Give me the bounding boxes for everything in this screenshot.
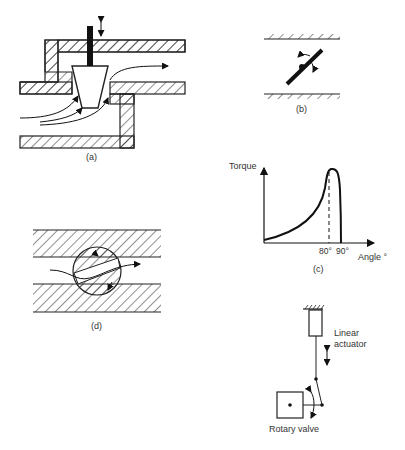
actuator-label-line1: Linear — [334, 328, 359, 338]
figure-e-actuator-linkage — [277, 305, 327, 418]
actuator-label-line2: actuator — [334, 339, 367, 349]
figure-d-ball-valve — [33, 230, 161, 312]
rotary-valve-label: Rotary valve — [269, 424, 319, 434]
caption-a: (a) — [86, 152, 97, 162]
figure-a-globe-valve — [20, 22, 185, 148]
caption-d: (d) — [91, 321, 102, 331]
tick-90: 90° — [336, 246, 349, 256]
y-axis-label: Torque — [229, 161, 257, 171]
diagram-canvas: (a) (b) Torque 80° 90° Angle ° (c) (d) — [0, 0, 405, 450]
caption-b: (b) — [296, 104, 307, 114]
figure-c-torque-chart — [264, 168, 374, 243]
figure-b-butterfly-valve — [264, 34, 340, 99]
caption-c: (c) — [313, 264, 324, 274]
x-axis-label: Angle ° — [358, 252, 388, 262]
tick-80: 80° — [319, 246, 332, 256]
